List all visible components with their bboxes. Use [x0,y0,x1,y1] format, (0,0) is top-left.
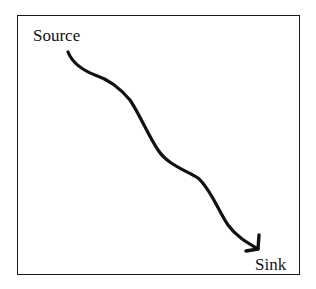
sink-label: Sink [255,256,286,273]
flow-curve [68,52,258,249]
source-to-sink-arrow [0,0,316,289]
